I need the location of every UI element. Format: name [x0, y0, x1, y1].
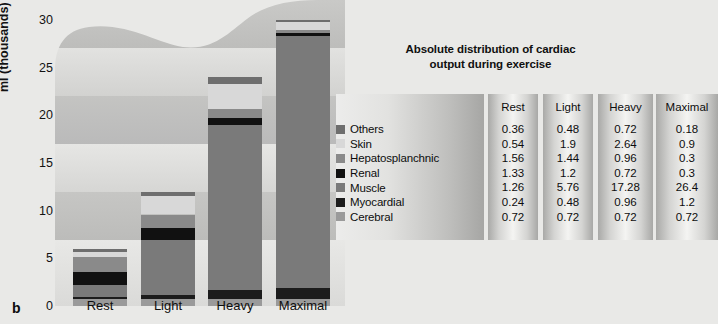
table-cell: 1.56	[488, 151, 538, 166]
legend-item-muscle: Muscle	[336, 180, 496, 195]
table-cell: 17.28	[598, 180, 653, 195]
table-cell: 0.48	[543, 122, 593, 137]
bar-segment-muscle	[276, 36, 330, 288]
bar-segment-hepatosplanchnic	[276, 30, 330, 33]
table-cell: 1.26	[488, 180, 538, 195]
bar-segment-renal	[141, 228, 195, 239]
y-axis-label: ml (thousands)	[0, 2, 11, 92]
table-cell: 0.72	[656, 210, 718, 225]
bar-segment-renal	[208, 118, 262, 125]
bar-segment-muscle	[141, 240, 195, 295]
bar-segment-renal	[276, 33, 330, 36]
bar-segment-hepatosplanchnic	[141, 215, 195, 229]
legend-swatch-icon	[336, 125, 345, 134]
legend-swatch-icon	[336, 139, 345, 148]
table-cells: 0.180.90.30.326.41.20.72	[656, 122, 718, 224]
table-cell: 5.76	[543, 180, 593, 195]
legend-label: Muscle	[350, 182, 386, 194]
table-cell: 1.9	[543, 137, 593, 152]
bar-segment-others	[276, 20, 330, 22]
bars-container	[55, 10, 345, 306]
table-header-rest: Rest	[488, 101, 538, 113]
table-cell: 1.2	[543, 166, 593, 181]
bar-segment-others	[141, 192, 195, 197]
table-cell: 0.48	[543, 195, 593, 210]
table-cell: 0.18	[656, 122, 718, 137]
legend-swatch-icon	[336, 154, 345, 163]
table-cells: 0.481.91.441.25.760.480.72	[543, 122, 593, 224]
legend-swatch-icon	[336, 212, 345, 221]
table-cell: 1.33	[488, 166, 538, 181]
legend-item-cerebral: Cerebral	[336, 210, 496, 225]
legend-item-hepatosplanchnic: Hepatosplanchnic	[336, 151, 496, 166]
panel-letter: b	[12, 300, 21, 316]
x-axis-labels: RestLightHeavyMaximal	[55, 298, 345, 318]
legend-swatch-icon	[336, 198, 345, 207]
table-cell: 0.96	[598, 195, 653, 210]
y-tick-5: 5	[19, 251, 53, 265]
bar-segment-hepatosplanchnic	[73, 257, 127, 272]
bar-segment-others	[208, 77, 262, 84]
bar-segment-skin	[73, 252, 127, 257]
bar-segment-skin	[276, 22, 330, 31]
bar-segment-skin	[141, 196, 195, 214]
chart-title-line1: Absolute distribution of cardiac	[345, 42, 636, 57]
table-cell: 0.96	[598, 151, 653, 166]
y-tick-30: 30	[19, 13, 53, 27]
bar-segment-skin	[208, 84, 262, 109]
y-tick-0: 0	[19, 299, 53, 313]
table-cells: 0.722.640.960.7217.280.960.72	[598, 122, 653, 224]
bar-maximal	[276, 20, 330, 306]
table-header-maximal: Maximal	[656, 101, 718, 113]
table-cell: 0.9	[656, 137, 718, 152]
plot-area	[55, 10, 345, 306]
table-cell: 1.2	[656, 195, 718, 210]
y-tick-25: 25	[19, 61, 53, 75]
y-tick-15: 15	[19, 156, 53, 170]
bar-segment-hepatosplanchnic	[208, 109, 262, 118]
table-header-light: Light	[543, 101, 593, 113]
bar-segment-muscle	[73, 285, 127, 297]
table-cell: 0.3	[656, 166, 718, 181]
legend-label: Hepatosplanchnic	[350, 152, 439, 164]
legend-item-others: Others	[336, 122, 496, 137]
chart-title-line2: output during exercise	[345, 57, 636, 72]
table-cells: 0.360.541.561.331.260.240.72	[488, 122, 538, 224]
legend-swatch-icon	[336, 169, 345, 178]
bar-light	[141, 192, 195, 306]
data-table: OthersSkinHepatosplanchnicRenalMuscleMyo…	[336, 94, 636, 244]
legend-label: Others	[350, 123, 384, 135]
table-cell: 1.44	[543, 151, 593, 166]
legend-label: Skin	[350, 138, 372, 150]
bar-segment-others	[73, 249, 127, 252]
legend: OthersSkinHepatosplanchnicRenalMuscleMyo…	[336, 122, 496, 224]
legend-item-renal: Renal	[336, 166, 496, 181]
legend-label: Cerebral	[350, 211, 393, 223]
y-tick-20: 20	[19, 108, 53, 122]
table-cell: 0.72	[543, 210, 593, 225]
y-axis-ticks: 302520151050	[9, 0, 53, 324]
bar-segment-muscle	[208, 125, 262, 290]
table-cell: 0.72	[598, 166, 653, 181]
bar-segment-renal	[73, 272, 127, 285]
right-panel: Absolute distribution of cardiac output …	[345, 0, 636, 324]
table-cell: 0.3	[656, 151, 718, 166]
table-cell: 0.36	[488, 122, 538, 137]
x-tick-maximal: Maximal	[258, 298, 348, 313]
y-tick-10: 10	[19, 204, 53, 218]
table-header-heavy: Heavy	[598, 101, 653, 113]
table-cell: 2.64	[598, 137, 653, 152]
legend-swatch-icon	[336, 183, 345, 192]
legend-label: Myocardial	[350, 196, 404, 208]
table-cell: 0.72	[598, 210, 653, 225]
chart-title: Absolute distribution of cardiac output …	[345, 42, 636, 73]
legend-item-skin: Skin	[336, 137, 496, 152]
table-cell: 26.4	[656, 180, 718, 195]
legend-label: Renal	[350, 167, 379, 179]
table-cell: 0.54	[488, 137, 538, 152]
table-cell: 0.24	[488, 195, 538, 210]
legend-item-myocardial: Myocardial	[336, 195, 496, 210]
table-cell: 0.72	[488, 210, 538, 225]
table-cell: 0.72	[598, 122, 653, 137]
